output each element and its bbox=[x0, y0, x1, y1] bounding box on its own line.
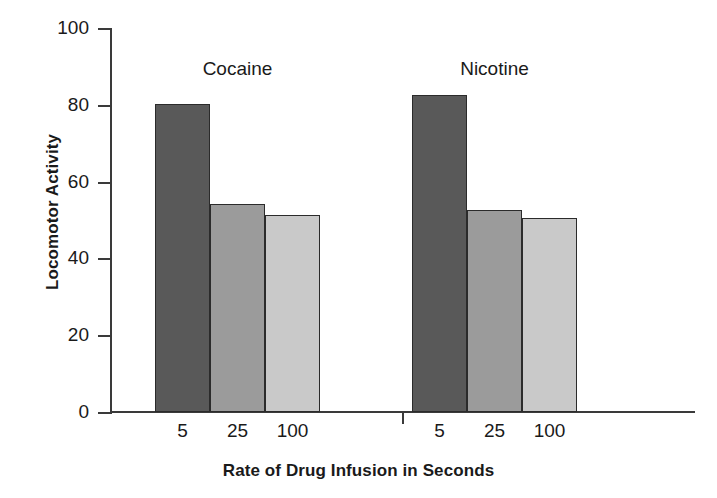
bar-cocaine-25 bbox=[210, 204, 265, 412]
group-label-nicotine: Nicotine bbox=[372, 58, 617, 80]
bar-cocaine-5 bbox=[155, 104, 210, 412]
bar-nicotine-25 bbox=[467, 210, 522, 412]
bar-chart-figure: Locomotor Activity 020406080100 CocaineN… bbox=[0, 0, 717, 498]
bar-nicotine-5 bbox=[412, 95, 467, 412]
group-label-cocaine: Cocaine bbox=[115, 58, 360, 80]
x-axis-title: Rate of Drug Infusion in Seconds bbox=[0, 461, 717, 481]
y-tick-mark bbox=[98, 412, 111, 414]
y-tick-0: 0 bbox=[0, 412, 111, 414]
x-tick-label-cocaine-100: 100 bbox=[245, 420, 340, 442]
bar-nicotine-100 bbox=[522, 218, 577, 412]
bar-cocaine-100 bbox=[265, 215, 320, 412]
x-tick-label-nicotine-100: 100 bbox=[502, 420, 597, 442]
